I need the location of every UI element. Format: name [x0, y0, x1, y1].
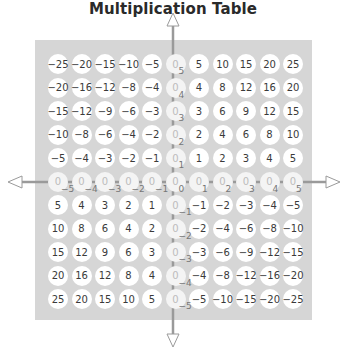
product-cell: −12: [72, 101, 92, 121]
product-cell: −4: [260, 195, 280, 215]
product-cell: −8: [213, 266, 233, 286]
product-cell: −8: [260, 219, 280, 239]
product-cell: −15: [236, 289, 256, 309]
product-cell: 5: [283, 148, 303, 168]
product-cell: −25: [48, 54, 68, 74]
product-cell: 15: [236, 54, 256, 74]
product-cell: 15: [48, 242, 68, 262]
product-cell: 16: [260, 78, 280, 98]
product-cell: 8: [213, 78, 233, 98]
product-cell: 3: [236, 148, 256, 168]
x-axis-right-arrow-icon: [326, 176, 340, 188]
product-cell: −8: [72, 125, 92, 145]
product-cell: −15: [95, 54, 115, 74]
product-cell: −2: [119, 148, 139, 168]
product-cell: 8: [72, 219, 92, 239]
product-cell: 1: [189, 148, 209, 168]
product-cell: 9: [95, 242, 115, 262]
product-cell: −4: [119, 125, 139, 145]
y-axis-subscript: 2: [179, 137, 185, 147]
x-axis-subscript: −2: [132, 184, 145, 194]
x-axis-subscript: 5: [296, 184, 302, 194]
product-cell: 4: [260, 148, 280, 168]
product-cell: −10: [283, 219, 303, 239]
y-axis-down-arrow-icon: [167, 334, 179, 347]
product-cell: 2: [142, 219, 162, 239]
product-cell: 9: [236, 101, 256, 121]
y-axis-subscript: −1: [179, 207, 192, 217]
product-cell: −20: [48, 78, 68, 98]
product-cell: −4: [213, 219, 233, 239]
product-cell: −6: [236, 219, 256, 239]
x-axis-subscript: 1: [202, 184, 208, 194]
product-cell: −16: [72, 78, 92, 98]
product-cell: −3: [95, 148, 115, 168]
product-cell: −15: [48, 101, 68, 121]
product-cell: −6: [95, 125, 115, 145]
product-cell: −3: [236, 195, 256, 215]
x-axis-subscript: −3: [108, 184, 121, 194]
product-cell: −20: [72, 54, 92, 74]
product-cell: −1: [142, 148, 162, 168]
product-cell: 10: [283, 125, 303, 145]
product-cell: −4: [189, 266, 209, 286]
product-cell: 4: [142, 266, 162, 286]
product-cell: −5: [142, 54, 162, 74]
product-cell: −10: [48, 125, 68, 145]
x-axis-subscript: 4: [273, 184, 279, 194]
x-axis-subscript: −1: [155, 184, 168, 194]
product-cell: 2: [119, 195, 139, 215]
product-cell: 20: [283, 78, 303, 98]
product-cell: 4: [72, 195, 92, 215]
product-cell: 10: [119, 289, 139, 309]
product-cell: −9: [236, 242, 256, 262]
product-cell: 5: [142, 289, 162, 309]
product-cell: 12: [260, 101, 280, 121]
y-axis-subscript: −4: [179, 278, 192, 288]
y-axis-subscript: 3: [179, 113, 185, 123]
product-cell: −5: [283, 195, 303, 215]
y-axis-subscript: −2: [179, 231, 192, 241]
product-cell: 20: [72, 289, 92, 309]
product-cell: −5: [189, 289, 209, 309]
product-cell: −8: [119, 78, 139, 98]
product-cell: −12: [236, 266, 256, 286]
product-cell: 15: [283, 101, 303, 121]
product-cell: −10: [213, 289, 233, 309]
product-cell: 12: [95, 266, 115, 286]
product-cell: 25: [48, 289, 68, 309]
x-axis-subscript: −4: [85, 184, 98, 194]
product-cell: −4: [72, 148, 92, 168]
x-axis-subscript: 2: [226, 184, 232, 194]
product-cell: −2: [142, 125, 162, 145]
product-cell: 16: [72, 266, 92, 286]
y-axis-subscript: −5: [179, 301, 192, 311]
product-cell: −3: [142, 101, 162, 121]
product-cell: −2: [189, 219, 209, 239]
product-cell: 4: [119, 219, 139, 239]
product-cell: 3: [95, 195, 115, 215]
product-cell: −6: [213, 242, 233, 262]
product-cell: −5: [48, 148, 68, 168]
product-cell: 20: [48, 266, 68, 286]
product-cell: −2: [213, 195, 233, 215]
product-cell: 3: [142, 242, 162, 262]
product-cell: 8: [119, 266, 139, 286]
product-cell: −10: [119, 54, 139, 74]
product-cell: −1: [189, 195, 209, 215]
y-axis-subscript: 1: [179, 160, 185, 170]
product-cell: 2: [189, 125, 209, 145]
product-cell: 8: [260, 125, 280, 145]
x-axis-subscript: −5: [61, 184, 74, 194]
product-cell: −16: [260, 266, 280, 286]
y-axis-subscript: 5: [179, 66, 185, 76]
product-cell: 12: [236, 78, 256, 98]
product-cell: −25: [283, 289, 303, 309]
product-cell: 20: [260, 54, 280, 74]
product-cell: 10: [213, 54, 233, 74]
product-cell: 10: [48, 219, 68, 239]
product-cell: 2: [213, 148, 233, 168]
y-axis-subscript: −3: [179, 254, 192, 264]
y-axis-subscript: 0: [179, 184, 185, 194]
product-cell: 12: [72, 242, 92, 262]
